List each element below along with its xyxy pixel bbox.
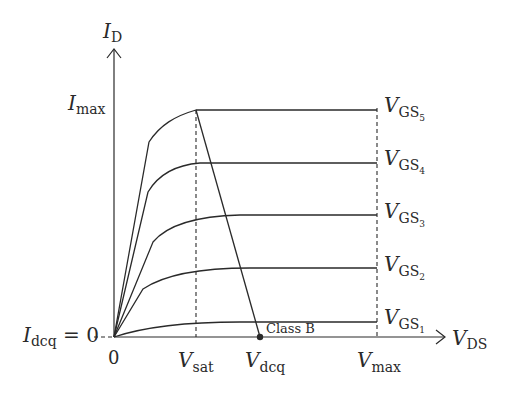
q-point-marker xyxy=(257,334,263,340)
vgs3-label: VGS3 xyxy=(384,199,425,229)
vgs4-label: VGS4 xyxy=(384,146,425,176)
vsat-label: Vsat xyxy=(178,348,214,375)
vgs1-curve xyxy=(114,322,377,337)
vgs2-label: VGS2 xyxy=(384,252,425,282)
vgs2-curve xyxy=(114,268,377,337)
vdcq-label: Vdcq xyxy=(245,348,285,375)
vgs5-label: VGS5 xyxy=(384,93,425,123)
origin-label: 0 xyxy=(108,347,119,368)
vds-axis-label: VDS xyxy=(452,326,487,352)
vmax-label: Vmax xyxy=(357,348,401,375)
transistor-characteristic-diagram: ID Imax Idcq = 0 0 Vsat Vdcq Vmax VDS Cl… xyxy=(0,0,511,396)
vgs5-curve xyxy=(114,110,377,337)
class-b-label: Class B xyxy=(266,321,315,336)
id-axis-label: ID xyxy=(102,19,122,45)
vgs4-curve xyxy=(114,163,377,337)
idcq-label: Idcq = 0 xyxy=(22,323,99,349)
class-b-load-line xyxy=(196,110,260,337)
vgs1-label: VGS1 xyxy=(384,305,425,335)
vgs3-curve xyxy=(114,215,377,337)
imax-label: Imax xyxy=(67,91,106,117)
